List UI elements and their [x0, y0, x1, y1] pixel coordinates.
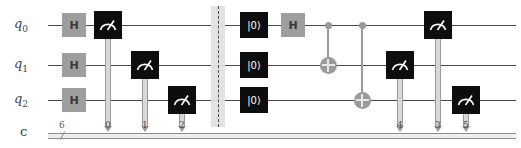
measure-classical-link [435, 39, 441, 127]
classical-register-size: 6 [59, 120, 65, 130]
cnot-control-dot[interactable] [359, 22, 366, 29]
measure-classical-link [105, 39, 111, 127]
barrier-dashed-line [218, 6, 219, 127]
hadamard-gate[interactable]: H [62, 88, 86, 112]
wire-label-q0: q0 [14, 16, 28, 34]
wire-label-q1: q1 [14, 56, 28, 74]
classical-bit-index: 4 [397, 120, 403, 130]
classical-bit-index: 5 [463, 120, 469, 130]
cnot-target-circle[interactable] [320, 57, 337, 74]
classical-wire [48, 133, 516, 139]
classical-bit-index: 1 [142, 120, 148, 130]
measure-gate[interactable] [94, 11, 122, 39]
cnot-target-circle[interactable] [354, 92, 371, 109]
cnot-connector [361, 25, 363, 100]
wire-label-q2: q2 [14, 91, 28, 109]
hadamard-gate[interactable]: H [62, 53, 86, 77]
qubit-wire-q2 [48, 100, 516, 101]
classical-bit-index: 0 [105, 120, 111, 130]
quantum-circuit-diagram: q0q1q2c6HHH|0⟩|0⟩|0⟩H012435 [0, 0, 521, 148]
classical-bit-index: 2 [179, 120, 185, 130]
qubit-wire-q1 [48, 65, 516, 66]
cnot-control-dot[interactable] [325, 22, 332, 29]
measure-gate[interactable] [424, 11, 452, 39]
measure-gate[interactable] [452, 86, 480, 114]
reset-gate[interactable]: |0⟩ [240, 87, 268, 113]
measure-gate[interactable] [131, 51, 159, 79]
reset-gate[interactable]: |0⟩ [240, 52, 268, 78]
reset-gate[interactable]: |0⟩ [240, 12, 268, 38]
hadamard-gate[interactable]: H [281, 13, 305, 37]
measure-gate[interactable] [386, 51, 414, 79]
classical-wire-label: c [20, 124, 27, 139]
hadamard-gate[interactable]: H [62, 13, 86, 37]
measure-gate[interactable] [168, 86, 196, 114]
classical-bit-index: 3 [435, 120, 441, 130]
